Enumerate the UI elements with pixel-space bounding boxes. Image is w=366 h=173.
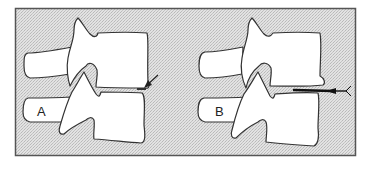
panel-label-b: B xyxy=(215,104,224,119)
panel-label-a: A xyxy=(37,104,46,119)
vertebrae-diagram: A B xyxy=(0,0,366,173)
diagram-canvas: A B xyxy=(0,0,366,173)
upper-vertebra-process-b xyxy=(199,47,243,78)
